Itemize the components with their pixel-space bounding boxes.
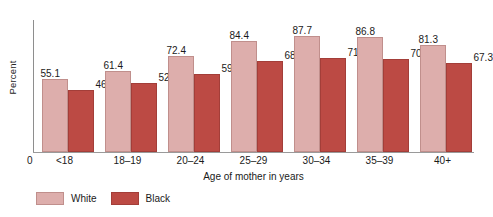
legend-swatch-icon xyxy=(36,192,64,205)
y-axis-title: Percent xyxy=(7,48,18,108)
bar-white-25–29: 84.4 xyxy=(231,41,257,152)
bar-black-25–29: 68.6 xyxy=(257,61,283,152)
bar-group: 55.146.8 xyxy=(42,20,94,152)
bar-value-label: 72.4 xyxy=(167,45,186,56)
bar-black-<18: 46.8 xyxy=(68,90,94,152)
bar-value-label: 81.3 xyxy=(419,34,438,45)
bar-white-40+: 81.3 xyxy=(420,45,446,152)
legend-item-white[interactable]: White xyxy=(36,192,97,205)
x-tick-25–29: 25–29 xyxy=(222,155,285,166)
legend-swatch-icon xyxy=(111,192,139,205)
legend-item-black[interactable]: Black xyxy=(111,192,170,205)
legend-label: Black xyxy=(146,193,170,204)
bar-black-20–24: 59.4 xyxy=(194,74,220,152)
bar-value-label: 61.4 xyxy=(104,60,123,71)
bar-white-<18: 55.1 xyxy=(42,79,68,152)
bar-black-35–39: 70.7 xyxy=(383,59,409,152)
x-tick-20–24: 20–24 xyxy=(159,155,222,166)
x-tick-<18: <18 xyxy=(33,155,96,166)
bar-black-30–34: 71.6 xyxy=(320,58,346,153)
x-axis-line xyxy=(33,152,474,153)
bar-value-label: 87.7 xyxy=(293,25,312,36)
bar-group: 87.771.6 xyxy=(294,20,346,152)
x-tick-35–39: 35–39 xyxy=(348,155,411,166)
x-axis-title: Age of mother in years xyxy=(33,171,474,182)
bar-value-label: 86.8 xyxy=(356,26,375,37)
bar-group: 86.870.7 xyxy=(357,20,409,152)
legend-label: White xyxy=(71,193,97,204)
bar-white-20–24: 72.4 xyxy=(168,56,194,152)
x-tick-40+: 40+ xyxy=(411,155,474,166)
bar-white-30–34: 87.7 xyxy=(294,36,320,152)
origin-tick-label: 0 xyxy=(27,155,33,166)
bar-value-label: 55.1 xyxy=(41,68,60,79)
bar-white-18–19: 61.4 xyxy=(105,71,131,152)
bar-group: 61.452.4 xyxy=(105,20,157,152)
plot-area: 55.146.861.452.472.459.484.468.687.771.6… xyxy=(33,20,474,152)
bar-value-label: 67.3 xyxy=(474,52,493,63)
bar-black-40+: 67.3 xyxy=(446,63,472,152)
x-tick-18–19: 18–19 xyxy=(96,155,159,166)
legend: WhiteBlack xyxy=(36,192,170,205)
bar-group: 81.367.3 xyxy=(420,20,472,152)
bar-value-label: 84.4 xyxy=(230,30,249,41)
x-tick-30–34: 30–34 xyxy=(285,155,348,166)
bar-group: 84.468.6 xyxy=(231,20,283,152)
bar-group: 72.459.4 xyxy=(168,20,220,152)
bar-black-18–19: 52.4 xyxy=(131,83,157,152)
bar-white-35–39: 86.8 xyxy=(357,37,383,152)
